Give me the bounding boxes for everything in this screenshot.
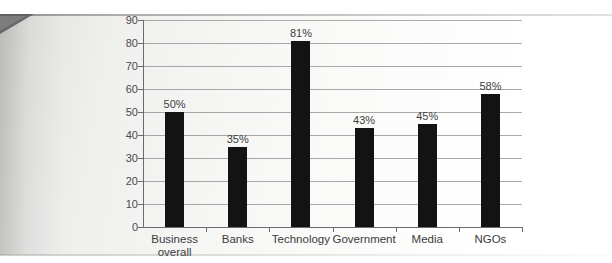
gridline-50	[143, 112, 522, 113]
gridline-80	[143, 43, 522, 44]
bar-value-label: 58%	[460, 80, 520, 92]
y-tick-label-20: 20	[104, 176, 138, 187]
bar	[481, 94, 500, 227]
bar-chart: 9080706050403020100 Business overallBank…	[0, 0, 612, 263]
bar-value-label: 50%	[145, 98, 205, 110]
y-axis-line	[143, 20, 144, 228]
x-tick-mark	[269, 227, 270, 232]
gridline-10	[143, 204, 522, 205]
y-tick-label-0: 0	[104, 222, 138, 233]
y-tick-label-10: 10	[104, 199, 138, 210]
bar	[228, 147, 247, 228]
gridline-90	[143, 20, 522, 21]
bar	[291, 41, 310, 227]
y-tick-label-80: 80	[104, 38, 138, 49]
y-axis-tick-labels: 9080706050403020100	[98, 20, 138, 227]
y-tick-label-50: 50	[104, 107, 138, 118]
plot-area	[143, 20, 522, 227]
bar-value-label: 45%	[397, 110, 457, 122]
bar	[165, 112, 184, 227]
x-tick-mark	[522, 227, 523, 232]
bar-value-label: 81%	[271, 27, 331, 39]
gridline-40	[143, 135, 522, 136]
x-category-label: NGOs	[445, 233, 535, 246]
bar-value-label: 35%	[208, 133, 268, 145]
x-tick-mark	[333, 227, 334, 232]
y-tick-label-60: 60	[104, 84, 138, 95]
gridline-30	[143, 158, 522, 159]
y-tick-label-40: 40	[104, 130, 138, 141]
gridline-70	[143, 66, 522, 67]
x-tick-mark	[459, 227, 460, 232]
y-tick-label-90: 90	[104, 15, 138, 26]
y-tick-label-70: 70	[104, 61, 138, 72]
gridline-20	[143, 181, 522, 182]
bar	[418, 124, 437, 228]
bar-value-label: 43%	[334, 114, 394, 126]
y-tick-label-30: 30	[104, 153, 138, 164]
chart-page: 9080706050403020100 Business overallBank…	[0, 0, 612, 263]
bar	[355, 128, 374, 227]
x-tick-mark	[396, 227, 397, 232]
x-tick-mark	[206, 227, 207, 232]
